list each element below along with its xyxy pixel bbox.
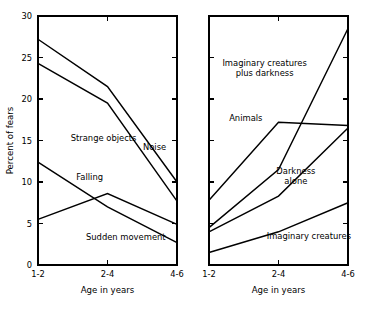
series-label-imaginary-creatures-plus-darkness: Imaginary creatures (222, 58, 306, 68)
y-tick-label: 15 (21, 136, 32, 146)
series-label-darkness-alone: alone (284, 176, 307, 186)
y-tick-label: 5 (27, 219, 32, 229)
x-axis-title: Age in years (252, 285, 306, 295)
y-tick-label: 20 (21, 94, 32, 104)
x-tick-label: 1-2 (31, 269, 45, 279)
series-label-sudden-movement: Sudden movement (86, 232, 166, 242)
x-axis-title: Age in years (81, 285, 135, 295)
series-label-falling: Falling (76, 172, 103, 182)
x-tick-label: 4-6 (341, 269, 355, 279)
x-tick-label: 1-2 (202, 269, 216, 279)
y-axis-title: Percent of fears (5, 106, 15, 174)
y-tick-label: 25 (21, 53, 32, 63)
panel-right: 1-22-44-6Imaginary creaturesplus darknes… (202, 16, 355, 295)
y-tick-label: 10 (21, 177, 32, 187)
fears-by-age-chart: 0510152025301-22-44-6NoiseStrange object… (0, 0, 371, 311)
series-line-falling (38, 162, 177, 243)
series-line-sudden-movement (38, 194, 177, 225)
series-line-noise (38, 39, 177, 182)
panel-left: 0510152025301-22-44-6NoiseStrange object… (5, 11, 184, 295)
x-tick-label: 4-6 (170, 269, 184, 279)
x-tick-label: 2-4 (272, 269, 286, 279)
series-label-darkness-alone: Darkness (276, 166, 315, 176)
series-label-imaginary-creatures-plus-darkness: plus darkness (236, 68, 294, 78)
x-tick-label: 2-4 (101, 269, 115, 279)
series-line-darkness-alone (209, 128, 348, 232)
series-line-strange-objects (38, 63, 177, 201)
plot-frame (209, 16, 348, 265)
figure-container: 0510152025301-22-44-6NoiseStrange object… (0, 0, 371, 311)
series-label-strange-objects: Strange objects (71, 133, 137, 143)
series-label-animals: Animals (229, 113, 262, 123)
y-tick-label: 30 (21, 11, 32, 21)
series-label-noise: Noise (143, 142, 166, 152)
series-line-animals (209, 122, 348, 200)
series-label-imaginary-creatures: Imaginary creatures (267, 231, 351, 241)
